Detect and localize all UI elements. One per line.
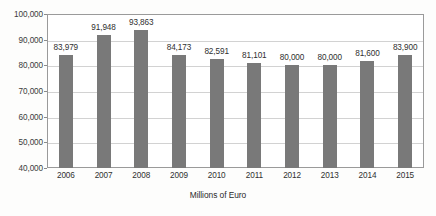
bar-value-label: 80,000 [318,53,342,62]
y-tick-mark [44,168,47,169]
bar-value-label: 91,948 [91,23,115,32]
bar-value-label: 93,863 [129,18,153,27]
bar[interactable] [97,35,111,168]
y-tick-label: 70,000 [0,87,43,96]
bar-value-label: 84,173 [167,43,191,52]
x-tick-label: 2012 [283,171,301,180]
x-tick-label: 2009 [170,171,188,180]
y-tick-label: 100,000 [0,10,43,19]
bar-slot: 83,900 [386,14,424,168]
chart-screenshot: 40,00050,00060,00070,00080,00090,000100,… [0,0,436,216]
x-tick-label: 2007 [95,171,113,180]
y-tick-label: 50,000 [0,138,43,147]
bar-slot: 81,600 [349,14,387,168]
bar-slot: 81,101 [236,14,274,168]
x-tick-label: 2010 [208,171,226,180]
bar[interactable] [172,55,186,168]
bar[interactable] [247,63,261,168]
y-tick-label: 60,000 [0,112,43,121]
bar-slot: 83,979 [47,14,85,168]
x-axis-title: Millions of Euro [0,190,436,200]
bar-value-label: 83,900 [393,43,417,52]
bars-layer: 83,97991,94893,86384,17382,59181,10180,0… [47,14,424,168]
bar-slot: 93,863 [122,14,160,168]
bar[interactable] [134,30,148,168]
bar-value-label: 81,600 [355,49,379,58]
x-tick-label: 2014 [359,171,377,180]
bar-slot: 80,000 [273,14,311,168]
bar-slot: 91,948 [85,14,123,168]
bar[interactable] [210,59,224,168]
bar-value-label: 82,591 [204,47,228,56]
x-tick-label: 2015 [396,171,414,180]
x-tick-label: 2013 [321,171,339,180]
bar-value-label: 81,101 [242,51,266,60]
bar[interactable] [285,65,299,168]
x-tick-label: 2008 [132,171,150,180]
y-axis: 40,00050,00060,00070,00080,00090,000100,… [0,0,43,216]
x-axis: 2006200720082009201020112012201320142015 [47,171,424,185]
bar[interactable] [323,65,337,168]
bar-slot: 80,000 [311,14,349,168]
x-tick-label: 2011 [246,171,263,180]
y-tick-label: 40,000 [0,164,43,173]
x-tick-label: 2006 [57,171,75,180]
bar-value-label: 83,979 [54,43,78,52]
bar[interactable] [59,55,73,168]
y-tick-label: 80,000 [0,61,43,70]
bar-value-label: 80,000 [280,53,304,62]
bar-slot: 84,173 [160,14,198,168]
y-tick-label: 90,000 [0,35,43,44]
bar-slot: 82,591 [198,14,236,168]
bar[interactable] [360,61,374,168]
bar[interactable] [398,55,412,168]
